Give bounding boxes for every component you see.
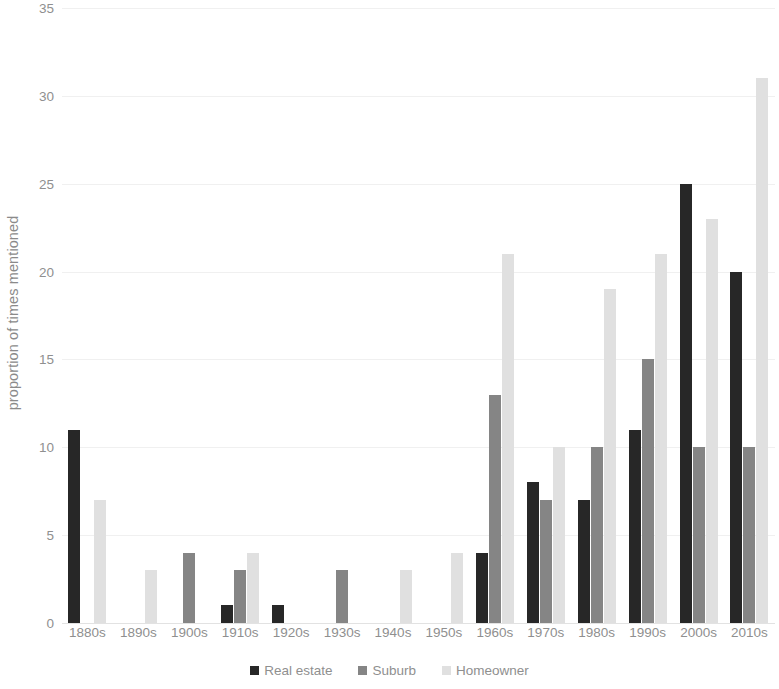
bar[interactable]	[730, 272, 742, 623]
bar-group	[571, 8, 622, 623]
y-axis-tick-label: 30	[39, 88, 54, 103]
bar[interactable]	[655, 254, 667, 623]
bar[interactable]	[145, 570, 157, 623]
bar-group	[724, 8, 775, 623]
bar[interactable]	[604, 289, 616, 623]
chart-legend: Real estateSuburbHomeowner	[0, 663, 779, 678]
bar-group	[113, 8, 164, 623]
x-axis-tick-labels: 1880s1890s1900s1910s1920s1930s1940s1950s…	[62, 625, 775, 649]
bar-group	[62, 8, 113, 623]
bar[interactable]	[591, 447, 603, 623]
legend-label: Suburb	[372, 663, 416, 678]
x-axis-tick-label: 1950s	[418, 625, 469, 649]
plot-area	[62, 8, 775, 623]
x-axis-tick-label: 1960s	[469, 625, 520, 649]
legend-label: Real estate	[264, 663, 332, 678]
y-axis-tick-label: 25	[39, 176, 54, 191]
legend-item[interactable]: Suburb	[358, 663, 416, 678]
y-axis-tick-label: 15	[39, 352, 54, 367]
bar[interactable]	[553, 447, 565, 623]
bar-groups	[62, 8, 775, 623]
bar[interactable]	[247, 553, 259, 623]
y-axis-tick-labels: 35302520151050	[26, 0, 60, 640]
bar-group	[368, 8, 419, 623]
bar[interactable]	[272, 605, 284, 623]
bar[interactable]	[489, 395, 501, 623]
y-axis-title-text: proportion of times mentioned	[5, 215, 21, 410]
bar[interactable]	[693, 447, 705, 623]
y-axis-tick-label: 5	[46, 528, 54, 543]
bar[interactable]	[336, 570, 348, 623]
y-axis-tick-label: 20	[39, 264, 54, 279]
y-axis-tick-label: 10	[39, 440, 54, 455]
bar-group	[622, 8, 673, 623]
gridline	[62, 623, 775, 624]
bar[interactable]	[642, 359, 654, 623]
bar-group	[520, 8, 571, 623]
bar[interactable]	[743, 447, 755, 623]
bar[interactable]	[629, 430, 641, 623]
bar-group	[317, 8, 368, 623]
x-axis-tick-label: 1980s	[571, 625, 622, 649]
bar-group	[266, 8, 317, 623]
x-axis-tick-label: 1890s	[113, 625, 164, 649]
bar[interactable]	[706, 219, 718, 623]
x-axis-tick-label: 1880s	[62, 625, 113, 649]
bar[interactable]	[183, 553, 195, 623]
x-axis-tick-label: 1910s	[215, 625, 266, 649]
x-axis-tick-label: 1970s	[520, 625, 571, 649]
bar-group	[469, 8, 520, 623]
legend-swatch-icon	[358, 666, 367, 675]
x-axis-tick-label: 1990s	[622, 625, 673, 649]
x-axis-tick-label: 1920s	[266, 625, 317, 649]
bar-group	[673, 8, 724, 623]
bar[interactable]	[221, 605, 233, 623]
bar[interactable]	[234, 570, 246, 623]
x-axis-tick-label: 1930s	[317, 625, 368, 649]
bar[interactable]	[756, 78, 768, 623]
bar-group	[215, 8, 266, 623]
bar[interactable]	[527, 482, 539, 623]
bar-group	[164, 8, 215, 623]
bar-group	[418, 8, 469, 623]
legend-swatch-icon	[250, 666, 259, 675]
bar[interactable]	[451, 553, 463, 623]
bar[interactable]	[476, 553, 488, 623]
y-axis-tick-label: 35	[39, 1, 54, 16]
bar[interactable]	[680, 184, 692, 623]
x-axis-tick-label: 2000s	[673, 625, 724, 649]
x-axis-tick-label: 2010s	[724, 625, 775, 649]
x-axis-tick-label: 1940s	[368, 625, 419, 649]
legend-swatch-icon	[442, 666, 451, 675]
bar[interactable]	[68, 430, 80, 623]
bar[interactable]	[540, 500, 552, 623]
y-axis-title: proportion of times mentioned	[0, 0, 26, 625]
legend-item[interactable]: Homeowner	[442, 663, 529, 678]
legend-label: Homeowner	[456, 663, 529, 678]
bar[interactable]	[400, 570, 412, 623]
bar[interactable]	[578, 500, 590, 623]
x-axis-tick-label: 1900s	[164, 625, 215, 649]
bar[interactable]	[502, 254, 514, 623]
y-axis-tick-label: 0	[46, 616, 54, 631]
bar-chart: proportion of times mentioned 3530252015…	[0, 0, 779, 689]
bar[interactable]	[94, 500, 106, 623]
legend-item[interactable]: Real estate	[250, 663, 332, 678]
